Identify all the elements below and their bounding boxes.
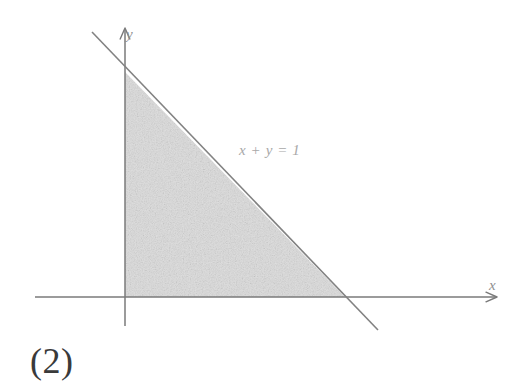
- shaded-triangle-region: [125, 72, 345, 297]
- y-axis-label: y: [126, 26, 133, 43]
- line-equation-label: x + y = 1: [239, 142, 300, 159]
- coordinate-plane-figure: [0, 0, 514, 388]
- figure-container: y x x + y = 1 (2): [0, 0, 514, 388]
- x-axis-label: x: [489, 277, 496, 294]
- figure-caption: (2): [30, 340, 73, 382]
